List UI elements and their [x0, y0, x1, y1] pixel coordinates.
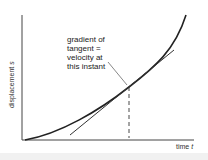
leader-line	[108, 62, 127, 85]
x-axis-label: time t	[176, 143, 193, 150]
y-axis-label: displacement s	[8, 61, 15, 108]
displacement-time-diagram	[0, 0, 208, 160]
gradient-annotation: gradient of tangent = velocity at this i…	[67, 35, 105, 71]
displacement-curve	[25, 15, 186, 140]
